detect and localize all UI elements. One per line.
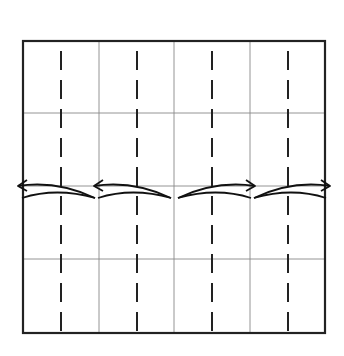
- arrow-right-outer-icon: [254, 180, 330, 198]
- arrow-left-outer-icon: [18, 180, 95, 198]
- origami-diagram: [0, 0, 344, 356]
- valley-fold-lines: [61, 51, 288, 333]
- arrow-right-inner-icon: [178, 180, 255, 198]
- arrow-left-inner-icon: [94, 180, 171, 198]
- grid-lines: [23, 41, 325, 333]
